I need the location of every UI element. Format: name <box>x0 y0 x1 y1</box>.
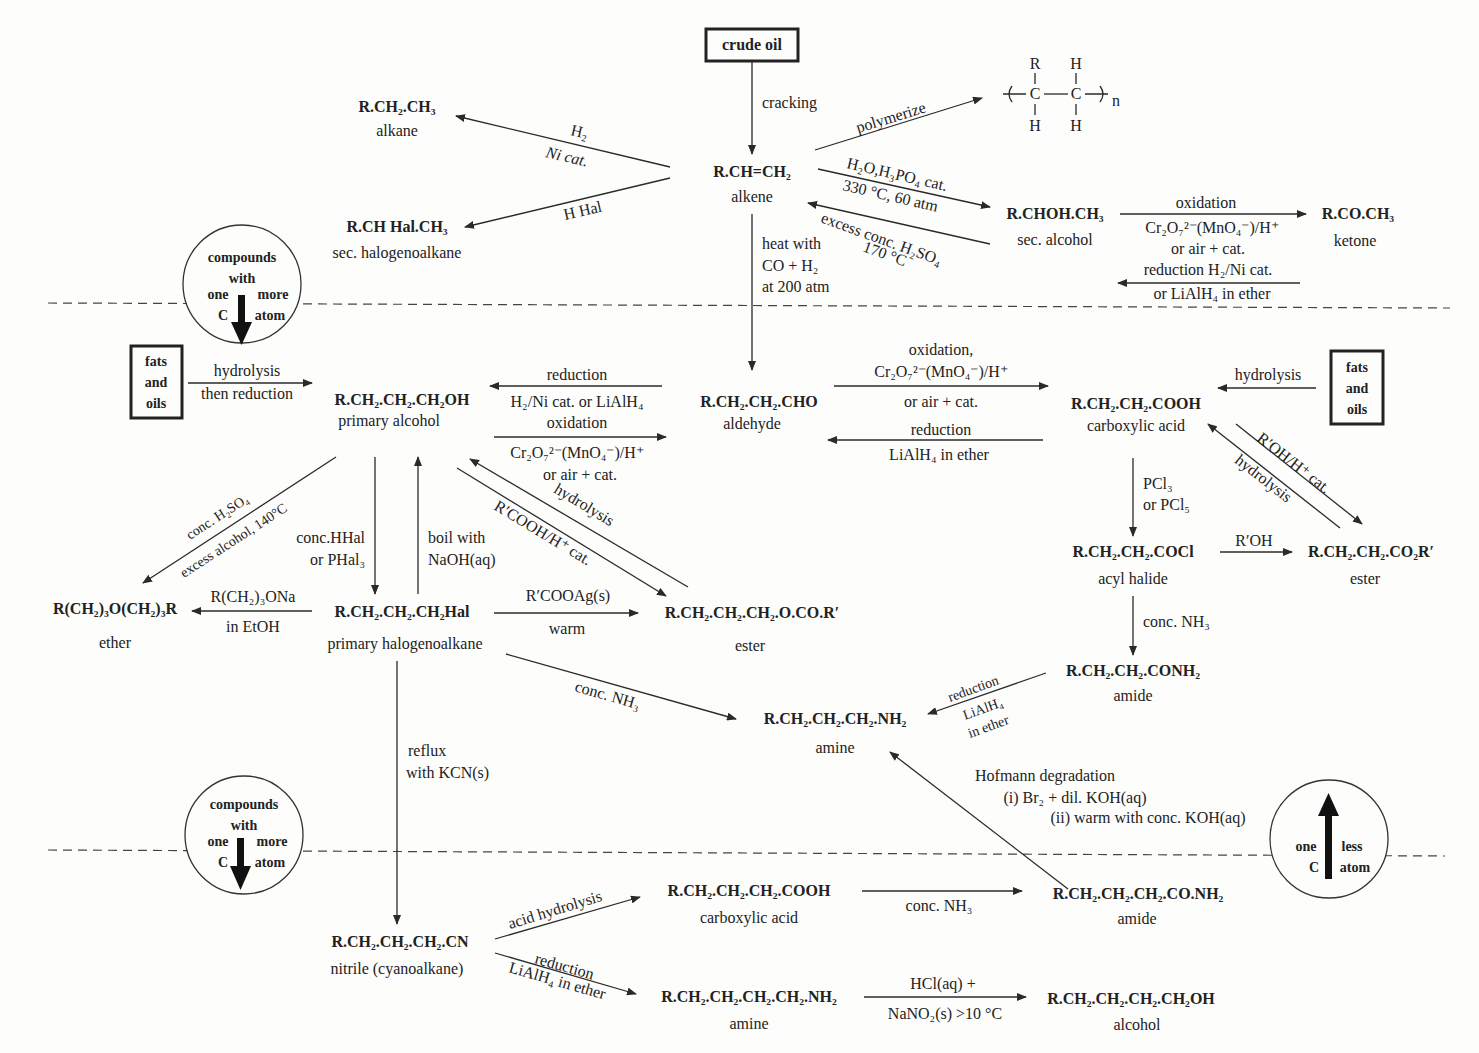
svg-text:R′COOAg(s): R′COOAg(s) <box>526 587 610 605</box>
amination-arrow <box>506 654 736 719</box>
svg-text:reflux: reflux <box>408 742 446 759</box>
svg-text:NaNO₂(s) >10 °C: NaNO₂(s) >10 °C <box>888 1005 1002 1023</box>
svg-text:compounds: compounds <box>210 797 279 812</box>
svg-text:NaOH(aq): NaOH(aq) <box>428 551 496 569</box>
svg-text:boil with: boil with <box>428 529 485 546</box>
svg-text:or air + cat.: or air + cat. <box>1171 240 1245 257</box>
svg-text:H: H <box>1070 117 1082 134</box>
svg-text:one: one <box>208 834 229 849</box>
svg-text:nitrile (cyanoalkane): nitrile (cyanoalkane) <box>331 960 464 978</box>
svg-text:then reduction: then reduction <box>201 385 293 402</box>
compound-amine-low: R.CH₂.CH₂.CH₂.CH₂.NH₂ amine <box>661 988 837 1032</box>
svg-text:(ii) warm with conc. KOH(aq): (ii) warm with conc. KOH(aq) <box>1050 809 1245 827</box>
svg-text:R.CO.CH₃: R.CO.CH₃ <box>1322 205 1395 222</box>
svg-text:sec. alcohol: sec. alcohol <box>1017 231 1093 248</box>
svg-text:alcohol: alcohol <box>1113 1016 1161 1033</box>
svg-text:in EtOH: in EtOH <box>226 618 280 635</box>
svg-text:C: C <box>1030 85 1041 102</box>
svg-text:and: and <box>1346 381 1369 396</box>
svg-text:conc.HHal: conc.HHal <box>296 529 365 546</box>
compound-amide-mid: R.CH₂.CH₂.CONH₂ amide <box>1066 662 1200 704</box>
svg-text:one: one <box>1296 839 1317 854</box>
compound-sec-alcohol: R.CHOH.CH₃ sec. alcohol <box>1006 205 1103 248</box>
compound-polymer: R H C C n H H <box>1003 55 1120 134</box>
svg-text:with: with <box>229 271 256 286</box>
compound-primary-haloalkane: R.CH₂.CH₂.CH₂Hal primary halogenoalkane <box>327 603 482 653</box>
svg-text:hydrolysis: hydrolysis <box>1235 366 1302 384</box>
svg-text:R.CH₂.CH₂.CH₂.CH₂.NH₂: R.CH₂.CH₂.CH₂.CH₂.NH₂ <box>661 988 837 1005</box>
svg-text:R.CH₂.CH₃: R.CH₂.CH₃ <box>358 98 435 115</box>
svg-text:amine: amine <box>815 739 854 756</box>
compound-ester-left: R.CH₂.CH₂.CH₂.O.CO.R′ ester <box>665 604 839 654</box>
svg-text:ester: ester <box>1350 570 1381 587</box>
svg-text:one: one <box>208 287 229 302</box>
svg-text:or PHal₃: or PHal₃ <box>310 551 365 568</box>
svg-text:hydrolysis: hydrolysis <box>214 362 281 380</box>
svg-text:HCl(aq) +: HCl(aq) + <box>910 975 975 993</box>
svg-text:H: H <box>1029 117 1041 134</box>
ether-formation-arrow <box>143 457 336 583</box>
compound-amide-low: R.CH₂.CH₂.CH₂.CO.NH₂ amide <box>1053 885 1224 927</box>
svg-text:R.CH₂.CH₂.COCl: R.CH₂.CH₂.COCl <box>1072 543 1194 560</box>
svg-text:acyl halide: acyl halide <box>1098 570 1168 588</box>
svg-text:C: C <box>218 308 228 323</box>
svg-text:amide: amide <box>1113 687 1152 704</box>
svg-text:less: less <box>1342 839 1364 854</box>
svg-text:R: R <box>1030 55 1041 72</box>
svg-text:n: n <box>1112 92 1120 109</box>
svg-text:reduction H₂/Ni cat.: reduction H₂/Ni cat. <box>1144 261 1273 278</box>
svg-text:carboxylic acid: carboxylic acid <box>1087 417 1185 435</box>
fats-oils-box-right: fats and oils <box>1331 351 1383 424</box>
compound-ester-right: R.CH₂.CH₂.CO₂R′ ester <box>1308 543 1434 587</box>
compound-alkene: R.CH=CH₂ alkene <box>713 163 791 205</box>
svg-text:R′OH: R′OH <box>1235 532 1273 549</box>
svg-text:R.CH₂.CH₂.CH₂.CN: R.CH₂.CH₂.CH₂.CN <box>331 933 469 950</box>
svg-text:or LiAlH₄ in ether: or LiAlH₄ in ether <box>1153 285 1271 302</box>
svg-text:R.CH=CH₂: R.CH=CH₂ <box>713 163 791 180</box>
svg-text:R.CH₂.CH₂.CH₂.O.CO.R′: R.CH₂.CH₂.CH₂.O.CO.R′ <box>665 604 839 621</box>
svg-text:PCl₃: PCl₃ <box>1143 475 1173 492</box>
fats-oils-box-left: fats and oils <box>131 346 182 418</box>
svg-text:alkane: alkane <box>376 122 418 139</box>
svg-text:polymerize: polymerize <box>854 99 928 137</box>
svg-text:carboxylic acid: carboxylic acid <box>700 909 798 927</box>
svg-text:R.CHOH.CH₃: R.CHOH.CH₃ <box>1006 205 1103 222</box>
svg-text:Cr₂O₇²⁻(MnO₄⁻)/H⁺: Cr₂O₇²⁻(MnO₄⁻)/H⁺ <box>510 444 644 462</box>
svg-text:C: C <box>1071 85 1082 102</box>
svg-text:crude oil: crude oil <box>722 36 783 53</box>
svg-text:oxidation: oxidation <box>547 414 607 431</box>
svg-text:R.CH₂.CH₂.CH₂.NH₂: R.CH₂.CH₂.CH₂.NH₂ <box>764 710 907 727</box>
svg-text:or PCl₅: or PCl₅ <box>1143 496 1190 513</box>
svg-text:CO + H₂: CO + H₂ <box>762 257 818 274</box>
svg-text:H Hal: H Hal <box>562 198 604 223</box>
svg-text:R.CH₂.CH₂.CH₂.CH₂OH: R.CH₂.CH₂.CH₂.CH₂OH <box>1047 990 1215 1007</box>
svg-text:primary alcohol: primary alcohol <box>338 412 440 430</box>
svg-text:compounds: compounds <box>208 250 277 265</box>
svg-text:Hofmann degradation: Hofmann degradation <box>975 767 1115 785</box>
reaction-diagram: crude oil cracking R.CH=CH₂ alkene R.CH₂… <box>0 0 1479 1053</box>
svg-text:atom: atom <box>255 855 286 870</box>
svg-text:R(CH₂)₃ONa: R(CH₂)₃ONa <box>211 588 296 606</box>
svg-text:fats: fats <box>1346 360 1368 375</box>
svg-text:ketone: ketone <box>1334 232 1377 249</box>
badge-one-less-carbon: one C less atom <box>1270 780 1388 898</box>
svg-text:acid hydrolysis: acid hydrolysis <box>506 887 604 933</box>
compound-primary-alcohol: R.CH₂.CH₂.CH₂OH primary alcohol <box>335 391 470 430</box>
svg-text:with: with <box>231 818 258 833</box>
compound-aldehyde: R.CH₂.CH₂.CHO aldehyde <box>700 393 818 433</box>
compound-alkane: R.CH₂.CH₃ alkane <box>358 98 435 139</box>
compound-carboxylic-acid: R.CH₂.CH₂.COOH carboxylic acid <box>1071 395 1202 435</box>
svg-text:more: more <box>257 834 288 849</box>
svg-text:amide: amide <box>1117 910 1156 927</box>
svg-text:reduction: reduction <box>911 421 971 438</box>
svg-text:oxidation,: oxidation, <box>909 341 973 358</box>
svg-text:Cr₂O₇²⁻(MnO₄⁻)/H⁺: Cr₂O₇²⁻(MnO₄⁻)/H⁺ <box>874 363 1008 381</box>
svg-text:heat with: heat with <box>762 235 821 252</box>
svg-text:C: C <box>1309 860 1319 875</box>
svg-text:reduction: reduction <box>547 366 607 383</box>
svg-text:R(CH₂)₃O(CH₂)₃R: R(CH₂)₃O(CH₂)₃R <box>53 600 178 618</box>
svg-text:R.CH₂.CH₂.COOH: R.CH₂.CH₂.COOH <box>1071 395 1202 412</box>
svg-text:at 200 atm: at 200 atm <box>762 278 830 295</box>
svg-text:fats: fats <box>145 354 167 369</box>
svg-text:R.CH₂.CH₂.CH₂OH: R.CH₂.CH₂.CH₂OH <box>335 391 470 408</box>
